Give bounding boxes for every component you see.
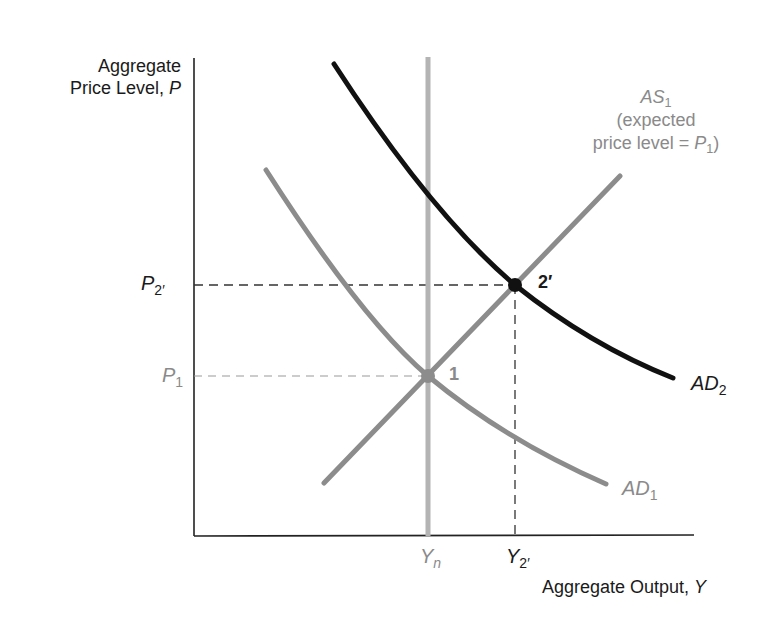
tick-yn: Yn: [420, 545, 441, 568]
y-axis-label-line1: Aggregate: [70, 55, 181, 77]
y-axis-label-var: P: [169, 78, 181, 98]
as1-label-note2: price level = P1): [576, 132, 736, 155]
tick-p1-main: P: [162, 364, 175, 386]
x-axis-label-text: Aggregate Output,: [542, 577, 694, 597]
y-axis-label-line2: Price Level, P: [70, 77, 181, 99]
x-axis-label: Aggregate Output, Y: [542, 577, 706, 598]
ad1-label: AD1: [622, 477, 658, 500]
tick-p1: P1: [162, 364, 183, 387]
y-axis-label-text: Price Level,: [70, 78, 169, 98]
tick-p2-sub: 2′: [154, 282, 164, 298]
tick-yn-sub: n: [433, 555, 441, 571]
as1-label: AS1 (expected price level = P1): [576, 86, 736, 155]
ad1-label-main: AD: [622, 477, 650, 499]
as1-label-title: AS1: [576, 86, 736, 109]
tick-y2-sub: 2′: [519, 555, 529, 571]
x-axis: [194, 535, 694, 536]
equilibrium-point-2: [508, 278, 522, 292]
as1-note-var: P: [694, 133, 706, 153]
tick-p2: P2′: [141, 272, 165, 295]
ad2-label-main: AD: [691, 372, 719, 394]
as1-label-main: AS: [640, 87, 664, 107]
as1-note-close: ): [713, 133, 719, 153]
ad1-label-sub: 1: [650, 487, 658, 503]
point-1-label: 1: [449, 364, 459, 385]
tick-yn-main: Y: [420, 545, 433, 567]
tick-p2-main: P: [141, 272, 154, 294]
as1-note-text: price level =: [593, 133, 695, 153]
point-2-label: 2′: [538, 272, 552, 293]
ad2-label-sub: 2: [719, 382, 727, 398]
ad2-label: AD2: [691, 372, 727, 395]
as1-label-note1: (expected: [576, 109, 736, 132]
y-axis-label: Aggregate Price Level, P: [70, 55, 181, 99]
tick-y2: Y2′: [506, 545, 530, 568]
tick-p1-sub: 1: [175, 374, 183, 390]
ad1-curve: [266, 170, 606, 484]
equilibrium-point-1: [421, 369, 435, 383]
tick-y2-main: Y: [506, 545, 519, 567]
x-axis-label-var: Y: [694, 577, 706, 597]
